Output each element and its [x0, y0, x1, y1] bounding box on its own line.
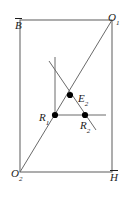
- label-o2-base: O: [11, 167, 19, 179]
- label-point-e2: E2: [78, 93, 88, 107]
- label-top-left-b: B: [15, 20, 22, 31]
- label-e2-sub: 2: [85, 100, 89, 108]
- label-o1-sub: 1: [116, 19, 120, 27]
- label-o2-sub: 2: [19, 175, 23, 183]
- label-e2-base: E: [78, 92, 85, 104]
- label-r2-base: R: [80, 119, 87, 131]
- point-r1-marker: [52, 112, 58, 118]
- label-point-r1: R1: [39, 112, 49, 126]
- label-bottom-right-h: H: [110, 172, 118, 183]
- point-r2-marker: [82, 112, 88, 118]
- label-h-base: H: [110, 172, 118, 183]
- point-e2-marker: [67, 92, 73, 98]
- label-bottom-left-o2: O2: [11, 168, 22, 182]
- label-top-right-o1: O1: [108, 12, 119, 26]
- label-o1-base: O: [108, 11, 116, 23]
- label-b-base: B: [15, 20, 22, 31]
- label-r1-base: R: [39, 111, 46, 123]
- geometric-figure: B O1 O2 H E2 R1 R2: [0, 0, 130, 197]
- label-r1-sub: 1: [46, 119, 50, 127]
- main-diagonal-line: [20, 20, 112, 172]
- label-r2-sub: 2: [87, 127, 91, 135]
- label-point-r2: R2: [80, 120, 90, 134]
